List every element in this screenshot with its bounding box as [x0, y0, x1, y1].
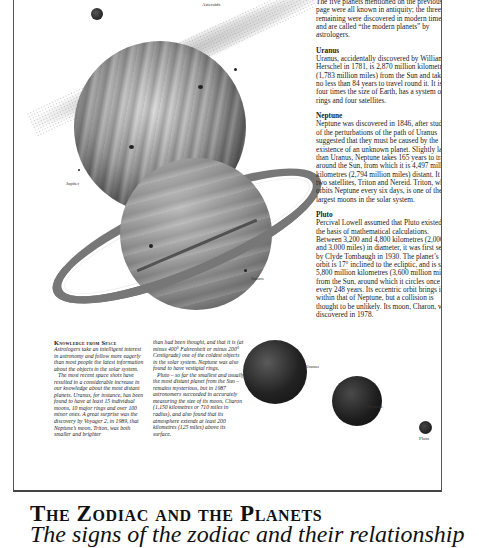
pluto-label: Pluto — [419, 436, 429, 441]
jupiter-spot — [198, 85, 203, 89]
neptune-label: Neptune — [367, 404, 383, 409]
moon-dot — [234, 68, 237, 71]
illustration-frame: Asteroids Jupiter Saturn The five planet… — [13, 0, 442, 492]
planet-description-column: The five planets mentioned on the previo… — [316, 0, 442, 326]
saturn-illustration — [42, 138, 322, 348]
sidebar-paragraph: than had been thought, and that it is (a… — [153, 339, 245, 372]
uranus-label: Uranus — [305, 364, 319, 369]
sidebar-left-column: Astrologers take an intelligent interest… — [54, 346, 146, 438]
mars-illustration — [91, 8, 103, 20]
neptune-illustration — [332, 376, 382, 426]
pluto-paragraph: Percival Lowell assumed that Pluto exist… — [316, 219, 442, 319]
sidebar-heading: Knowledge from Space — [54, 339, 117, 346]
uranus-paragraph: Uranus, accidentally discovered by Willi… — [316, 55, 442, 105]
saturn-moon — [149, 244, 153, 248]
sidebar-paragraph: Pluto – so far the smallest and usually … — [153, 372, 245, 437]
saturn-label: Saturn — [251, 276, 264, 281]
intro-paragraph: The five planets mentioned on the previo… — [316, 0, 442, 40]
sidebar-right-column: than had been thought, and that it is (a… — [153, 339, 245, 437]
asteroids-label: Asteroids — [202, 2, 220, 7]
saturn-moon — [244, 269, 247, 272]
pluto-illustration — [419, 421, 432, 434]
neptune-paragraph: Neptune was discovered in 1846, after st… — [316, 120, 442, 203]
sidebar-paragraph: The most recent space shots have resulte… — [54, 372, 146, 437]
chapter-subtitle: The signs of the zodiac and their relati… — [30, 521, 464, 548]
uranus-illustration — [243, 340, 307, 404]
sidebar-paragraph: Astrologers take an intelligent interest… — [54, 346, 146, 372]
